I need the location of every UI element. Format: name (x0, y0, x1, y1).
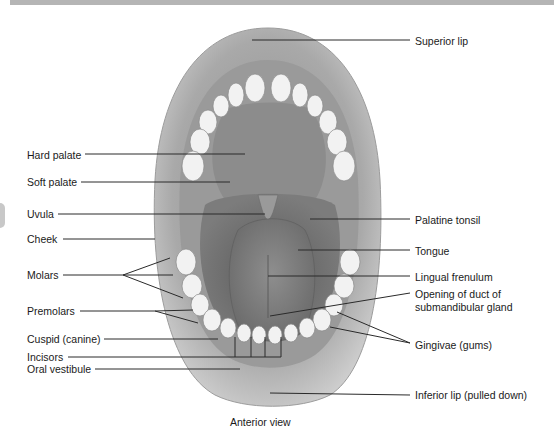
label-oral-vestibule: Oral vestibule (27, 363, 91, 375)
label-hard-palate: Hard palate (27, 149, 81, 161)
label-inferior-lip: Inferior lip (pulled down) (415, 389, 527, 401)
label-incisors: Incisors (27, 351, 63, 363)
label-soft-palate: Soft palate (27, 176, 77, 188)
label-uvula: Uvula (27, 208, 54, 220)
label-palatine-tonsil: Palatine tonsil (415, 214, 480, 226)
label-gingivae: Gingivae (gums) (415, 339, 492, 351)
label-cuspid: Cuspid (canine) (27, 333, 101, 345)
label-cheek: Cheek (27, 233, 57, 245)
label-molars: Molars (27, 269, 59, 281)
label-tongue: Tongue (415, 245, 449, 257)
label-superior-lip: Superior lip (415, 35, 468, 47)
label-duct-opening-line2: submandibular gland (415, 301, 512, 313)
figure-caption: Anterior view (230, 416, 291, 428)
label-duct-opening-line1: Opening of duct of (415, 288, 501, 300)
label-premolars: Premolars (27, 305, 75, 317)
label-lingual-frenulum: Lingual frenulum (415, 271, 493, 283)
